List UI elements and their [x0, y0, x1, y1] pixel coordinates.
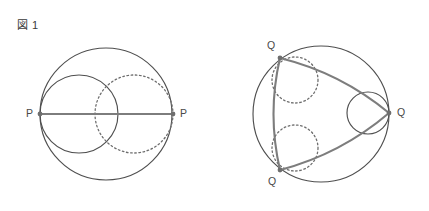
point-label-q-top: Q [267, 40, 275, 51]
point-label-q-right: Q [397, 107, 405, 118]
vertex-dot-q-bottom [278, 168, 283, 173]
point-label-q-bottom: Q [268, 176, 276, 187]
arc-chord-top-to-bottom [274, 58, 281, 170]
vertex-dot-q-right [387, 111, 392, 116]
vertex-dot-p-left [38, 112, 43, 117]
vertex-dot-p-right [171, 112, 176, 117]
figure-1-geometry [38, 48, 176, 180]
point-label-p-left: P [26, 108, 33, 119]
arc-chord-right-to-bottom [280, 113, 389, 170]
vertex-dot-q-top [278, 56, 283, 61]
geometry-canvas [0, 0, 429, 211]
point-label-p-right: P [180, 108, 187, 119]
figure-sheet: 図 1 図 2 P P Q Q [0, 0, 429, 211]
arc-chord-top-to-right [280, 58, 389, 113]
figure-2-geometry [253, 46, 391, 182]
